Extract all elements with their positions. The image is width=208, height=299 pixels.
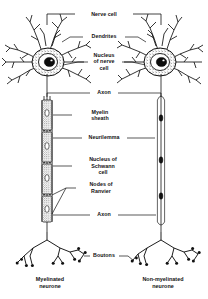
left-axon: [42, 74, 53, 232]
label-schwann-line3: cell: [98, 169, 108, 175]
caption-right-line1: Non-myelinated: [142, 276, 183, 282]
myelin-sheath-segments: [42, 100, 52, 222]
label-myelin-line1: Myelin: [92, 109, 109, 115]
left-nucleus: [44, 57, 54, 66]
caption-right-line2: neurone: [152, 283, 174, 289]
right-boutons: [131, 247, 201, 266]
label-ranvier-line1: Nodes of: [89, 181, 112, 187]
label-nucleus-line2: of nerve: [93, 58, 114, 64]
label-schwann-line1: Nucleus of: [89, 156, 117, 162]
label-myelin-line2: sheath: [91, 115, 108, 121]
neurone-diagram: Nerve cell Dendrites Nucleus of nerve ce…: [0, 0, 208, 299]
label-nucleus-line1: Nucleus: [94, 52, 115, 58]
label-schwann-line2: Schwann: [91, 163, 115, 169]
right-axon: [157, 74, 164, 232]
left-cell-body: [32, 48, 64, 76]
label-nerve-cell: Nerve cell: [91, 11, 117, 17]
label-ranvier-line2: Ranvier: [91, 188, 111, 194]
right-nucleus: [156, 57, 166, 66]
label-boutons: Boutons: [93, 252, 115, 258]
caption-left-line1: Myelinated: [36, 276, 64, 282]
right-cell-body: [144, 48, 176, 76]
caption-left-line2: neurone: [39, 283, 61, 289]
label-nucleus-line3: cell: [99, 65, 109, 71]
nodes-of-ranvier-leaders: [52, 188, 76, 214]
label-dendrites: Dendrites: [92, 33, 117, 39]
label-neurilemma: Neurilemma: [89, 134, 120, 140]
label-axon-upper: Axon: [97, 89, 110, 95]
label-axon-lower: Axon: [97, 211, 110, 217]
